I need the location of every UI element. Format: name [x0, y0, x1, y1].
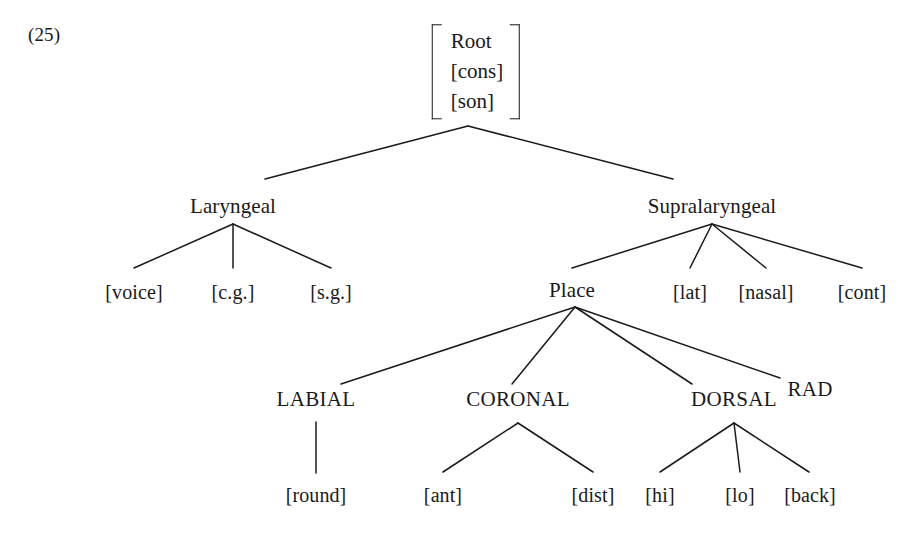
root-node-matrix: Root [cons] [son]: [432, 24, 520, 119]
node-feature-dist: [dist]: [572, 484, 615, 506]
node-radical: RAD: [787, 378, 832, 402]
node-place: Place: [549, 279, 595, 303]
node-feature-ant: [ant]: [424, 484, 462, 506]
node-coronal: CORONAL: [466, 388, 570, 412]
bracket-right-icon: [510, 24, 520, 119]
node-feature-voice: [voice]: [105, 281, 162, 303]
node-feature-hi: [hi]: [645, 484, 674, 506]
node-feature-cont: [cont]: [838, 281, 886, 303]
node-feature-sg: [s.g.]: [310, 281, 352, 303]
bracket-left-icon: [432, 24, 442, 119]
node-feature-back: [back]: [784, 484, 836, 506]
root-node-label-root: Root: [451, 27, 492, 57]
node-dorsal: DORSAL: [691, 388, 777, 412]
node-feature-lo: [lo]: [725, 484, 754, 506]
root-node-rows: Root [cons] [son]: [442, 24, 510, 119]
node-supralaryngeal: Supralaryngeal: [648, 195, 777, 219]
feature-geometry-figure: (25): [0, 0, 910, 538]
example-number: (25): [28, 24, 60, 45]
node-feature-lat: [lat]: [673, 281, 707, 303]
node-feature-nasal: [nasal]: [738, 281, 793, 303]
node-feature-round: [round]: [286, 484, 347, 506]
root-node-label-cons: [cons]: [451, 57, 503, 87]
node-laryngeal: Laryngeal: [190, 195, 276, 219]
root-node-label-son: [son]: [451, 87, 494, 117]
node-feature-cg: [c.g.]: [212, 281, 255, 303]
node-labial: LABIAL: [277, 388, 356, 412]
